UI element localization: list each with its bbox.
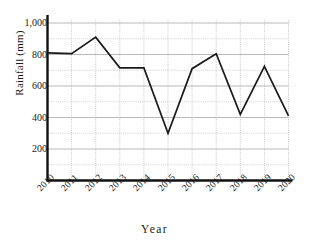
- x-tick-label: 2013: [107, 172, 128, 193]
- x-axis-tick-labels: 2010201120122013201420152016201720182019…: [0, 0, 309, 245]
- y-axis-title: Rainfall (mm): [13, 0, 25, 128]
- x-tick-label: 2011: [59, 172, 80, 193]
- x-tick-label: 2016: [180, 172, 201, 193]
- x-tick-label: 2012: [83, 172, 104, 193]
- x-axis-title: Year: [0, 223, 309, 235]
- x-tick-label: 2019: [252, 172, 273, 193]
- x-tick-label: 2018: [228, 172, 249, 193]
- x-tick-label: 2017: [204, 172, 225, 193]
- x-tick-label: 2020: [276, 172, 297, 193]
- x-tick-label: 2010: [35, 172, 56, 193]
- x-tick-label: 2015: [156, 172, 177, 193]
- rainfall-line-chart: 2004006008001,000 2010201120122013201420…: [0, 0, 309, 245]
- x-tick-label: 2014: [131, 172, 152, 193]
